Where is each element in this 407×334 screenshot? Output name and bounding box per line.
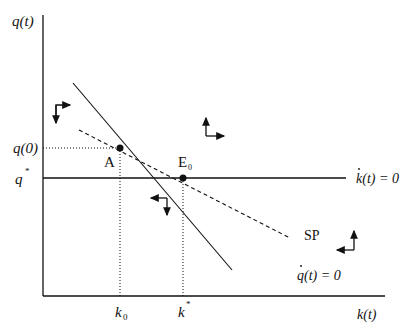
x-axis-label: k(t) [357,307,377,323]
arrow-pair-lower-right [337,231,354,250]
point-e0-label: E [178,154,187,170]
q0-label: q(0) [13,140,38,157]
point-a [117,145,124,152]
kdot-dot [358,168,360,170]
arrow-pair-lower-middle [151,198,167,215]
qdot-zero-label: q(t) = 0 [297,268,341,284]
qstar-sup: * [25,166,30,176]
phase-diagram: q(t) k(t) q(0) q * k 0 k * A E 0 k(t) = … [0,0,407,334]
y-axis-label: q(t) [12,13,34,30]
k0-sub: 0 [123,312,128,322]
point-e0-sub: 0 [188,163,192,172]
diagram-canvas: q(t) k(t) q(0) q * k 0 k * A E 0 k(t) = … [0,0,407,334]
arrow-pair-upper-left [56,105,70,123]
qstar-label: q [15,171,23,187]
point-a-label: A [104,154,115,170]
kdot-zero-label: k(t) = 0 [356,171,399,187]
saddle-path-line [79,130,290,238]
k0-label: k [115,304,122,320]
point-e0 [180,175,187,182]
saddle-path-label: SP [304,228,320,243]
qdot-dot [300,265,302,267]
arrow-pair-upper-right [206,118,224,136]
kstar-sup: * [186,299,191,309]
kstar-label: k [178,304,185,320]
qdot-zero-line [73,83,232,270]
